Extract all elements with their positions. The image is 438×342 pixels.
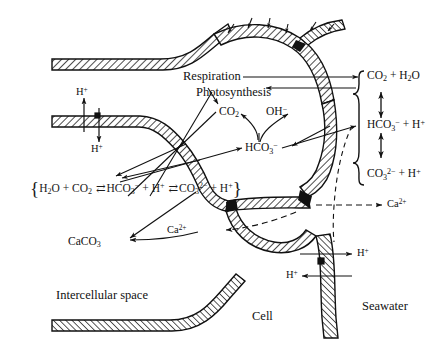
curve-oh-to-hco3 <box>260 114 288 142</box>
membrane-seawater-boundary <box>316 234 338 338</box>
label-hplus-in-seawater: H+ <box>286 269 298 281</box>
membrane-bottom-left <box>52 274 245 331</box>
figure-canvas: Respiration Photosynthesis CO2 OH− HCO3−… <box>0 0 438 342</box>
label-hplus-out-seawater: H+ <box>357 247 369 259</box>
membrane-top-left <box>52 24 232 70</box>
left-equilibrium-equation: {H2O + CO2 ⇄HCO3− + H+ ⇄CO32− + H+} <box>30 178 242 200</box>
label-hco3-cell: HCO3− <box>245 142 278 156</box>
label-seawater: Seawater <box>362 300 408 313</box>
label-oh-minus: OH− <box>266 106 287 118</box>
label-hplus-in-upper: H+ <box>91 143 103 155</box>
label-hplus-out-upper: H+ <box>76 86 88 98</box>
label-respiration: Respiration <box>183 70 241 83</box>
right-eq-row-co32: CO32− + H+ <box>367 168 421 182</box>
label-co2-cell: CO2 <box>219 106 239 119</box>
membrane-mid-left <box>52 116 184 150</box>
right-eq-row-hco3: HCO3− + H+ <box>367 119 425 133</box>
label-photosynthesis: Photosynthesis <box>196 86 271 99</box>
membrane-lower-arch <box>226 209 316 253</box>
curve-co2-to-hco3 <box>241 114 258 140</box>
label-caco3: CaCO3 <box>68 236 101 249</box>
label-ca2plus-cell: Ca2+ <box>167 224 187 236</box>
label-ca2plus-seawater: Ca2+ <box>387 198 407 210</box>
curve-ca-to-caco3 <box>130 232 198 240</box>
label-intercellular-space: Intercellular space <box>56 289 148 302</box>
label-cell: Cell <box>252 310 273 323</box>
membrane-top-branch <box>300 20 345 45</box>
right-eq-row-co2: CO2 + H2O <box>367 70 420 83</box>
arrow-membrane-to-eq-b <box>122 160 200 178</box>
membrane-right-bulge <box>300 100 337 197</box>
